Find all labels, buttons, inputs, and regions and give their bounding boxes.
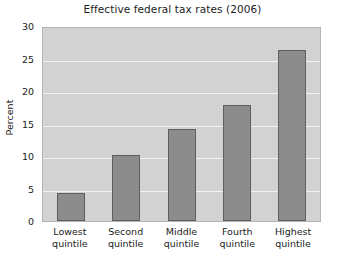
bar-slot bbox=[43, 28, 98, 221]
y-tick-label: 5 bbox=[28, 185, 34, 195]
bar bbox=[223, 105, 251, 221]
y-tick-label: 10 bbox=[22, 152, 34, 162]
bar bbox=[278, 50, 306, 221]
y-axis-tick-labels: 051015202530 bbox=[0, 27, 38, 222]
y-tick-label: 15 bbox=[22, 120, 34, 130]
chart-figure: Effective federal tax rates (2006) Perce… bbox=[0, 0, 345, 273]
plot-area bbox=[42, 27, 321, 222]
bar-slot bbox=[209, 28, 264, 221]
bar-slot bbox=[265, 28, 320, 221]
bar-series bbox=[43, 28, 320, 221]
y-tick-label: 25 bbox=[22, 55, 34, 65]
chart-title: Effective federal tax rates (2006) bbox=[0, 3, 345, 16]
bar bbox=[112, 155, 140, 221]
y-tick-label: 0 bbox=[28, 217, 34, 227]
x-tick-label: Lowest quintile bbox=[42, 226, 98, 250]
y-tick-label: 30 bbox=[22, 22, 34, 32]
x-axis-tick-labels: Lowest quintileSecond quintileMiddle qui… bbox=[42, 226, 321, 250]
x-tick-label: Highest quintile bbox=[265, 226, 321, 250]
bar-slot bbox=[98, 28, 153, 221]
bar-slot bbox=[154, 28, 209, 221]
x-tick-label: Middle quintile bbox=[154, 226, 210, 250]
bar bbox=[57, 193, 85, 221]
x-tick-label: Fourth quintile bbox=[209, 226, 265, 250]
bar bbox=[168, 129, 196, 221]
x-tick-label: Second quintile bbox=[98, 226, 154, 250]
y-tick-label: 20 bbox=[22, 87, 34, 97]
